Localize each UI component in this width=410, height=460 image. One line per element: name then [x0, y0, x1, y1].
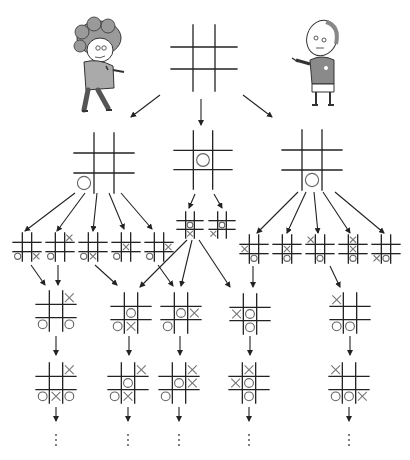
o-mark-icon — [127, 309, 136, 318]
o-mark-icon — [197, 154, 210, 167]
board-l2-b1 — [177, 212, 203, 238]
board-l2-a4 — [112, 233, 140, 261]
o-mark-icon — [284, 255, 290, 261]
board-l2-c5 — [372, 235, 400, 263]
o-mark-icon — [113, 322, 122, 331]
o-mark-icon — [246, 323, 255, 332]
o-mark-icon — [147, 253, 153, 259]
o-mark-icon — [383, 255, 389, 261]
board-l2-c4 — [339, 235, 367, 263]
continuation-ellipsis-icon — [55, 434, 57, 446]
game-tree-diagram — [0, 0, 410, 460]
o-mark-icon — [245, 392, 254, 401]
boards-layer — [13, 25, 400, 403]
x-mark-icon — [52, 392, 61, 401]
continuation-ellipsis-icon — [127, 434, 129, 446]
arrow-5 — [93, 193, 97, 231]
o-mark-icon — [38, 392, 47, 401]
x-mark-icon — [284, 246, 290, 252]
board-l4-1 — [36, 363, 76, 403]
o-mark-icon — [163, 322, 172, 331]
o-mark-icon — [77, 176, 90, 189]
o-mark-icon — [245, 379, 254, 388]
o-mark-icon — [251, 255, 257, 261]
o-mark-icon — [219, 222, 225, 228]
board-root — [171, 25, 237, 91]
board-l2-c2 — [273, 235, 301, 263]
board-l4-4 — [229, 363, 269, 403]
o-mark-icon — [246, 310, 255, 319]
continuation-ellipsis-icon — [178, 434, 180, 446]
arrow-21 — [199, 240, 230, 287]
x-mark-icon — [350, 246, 356, 252]
o-mark-icon — [331, 392, 340, 401]
board-l2-a2 — [46, 233, 74, 261]
bald-kid-illustration — [292, 16, 342, 105]
x-mark-icon — [350, 237, 356, 243]
arrow-8 — [189, 194, 195, 208]
game-tree-canvas — [0, 0, 410, 460]
o-mark-icon — [110, 392, 119, 401]
x-mark-icon — [232, 310, 241, 319]
arrow-10 — [257, 192, 298, 233]
grid-lines — [282, 130, 342, 190]
continuation-dots-layer — [55, 434, 350, 446]
o-mark-icon — [345, 392, 354, 401]
arrow-2 — [243, 95, 272, 117]
x-mark-icon — [242, 246, 248, 252]
x-mark-icon — [65, 293, 74, 302]
o-mark-icon — [332, 322, 341, 331]
o-mark-icon — [65, 392, 74, 401]
x-mark-icon — [331, 365, 340, 374]
x-mark-icon — [188, 365, 197, 374]
arrow-13 — [323, 192, 350, 233]
arrow-0 — [131, 95, 160, 117]
o-mark-icon — [187, 222, 193, 228]
arrow-19 — [158, 265, 173, 286]
board-l2-b2 — [209, 212, 235, 238]
arrow-9 — [214, 194, 222, 208]
board-l3-3 — [161, 293, 201, 333]
continuation-ellipsis-icon — [248, 434, 250, 446]
board-l2-c3 — [306, 235, 334, 263]
arrow-15 — [31, 265, 45, 285]
x-mark-icon — [137, 365, 146, 374]
x-mark-icon — [127, 322, 136, 331]
x-mark-icon — [358, 392, 367, 401]
board-l3-5 — [330, 293, 370, 333]
x-mark-icon — [188, 379, 197, 388]
x-mark-icon — [33, 253, 39, 259]
board-l4-2 — [108, 363, 148, 403]
continuation-ellipsis-icon — [348, 434, 350, 446]
board-l3-4 — [230, 294, 270, 334]
o-mark-icon — [350, 255, 356, 261]
board-l3-1 — [36, 291, 76, 331]
o-mark-icon — [124, 379, 133, 388]
arrow-12 — [314, 192, 318, 233]
o-mark-icon — [114, 253, 120, 259]
x-mark-icon — [308, 237, 314, 243]
x-mark-icon — [245, 365, 254, 374]
board-l2-a3 — [79, 233, 107, 261]
grid-lines — [171, 25, 237, 91]
x-mark-icon — [374, 255, 380, 261]
board-l4-5 — [329, 363, 369, 403]
o-mark-icon — [177, 309, 186, 318]
x-mark-icon — [66, 235, 72, 241]
arrow-14 — [335, 192, 384, 233]
o-mark-icon — [15, 253, 21, 259]
board-l2-a1 — [13, 233, 41, 261]
arrow-6 — [109, 193, 124, 229]
x-mark-icon — [210, 231, 216, 237]
o-mark-icon — [65, 320, 74, 329]
board-l1-a — [74, 133, 134, 193]
o-mark-icon — [38, 320, 47, 329]
arrow-3 — [25, 193, 75, 231]
o-mark-icon — [305, 173, 318, 186]
board-l1-c — [282, 130, 342, 190]
board-l1-b — [174, 131, 232, 189]
x-mark-icon — [90, 253, 96, 259]
curly-haired-kid-illustration — [74, 17, 124, 111]
x-mark-icon — [190, 309, 199, 318]
x-mark-icon — [123, 244, 129, 250]
